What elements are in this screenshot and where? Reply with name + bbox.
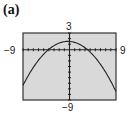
x-max-label: 9 bbox=[120, 46, 126, 56]
x-min-label: −9 bbox=[4, 46, 15, 56]
y-min-label: −9 bbox=[62, 103, 73, 113]
y-max-label: 3 bbox=[66, 22, 72, 32]
